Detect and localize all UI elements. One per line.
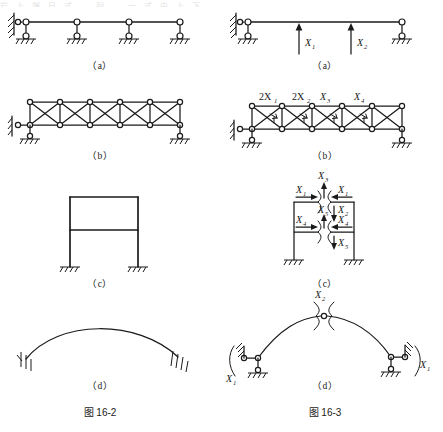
- arrow-x1-right: X 1: [331, 184, 352, 200]
- label-d-x1-right-sub: 1: [427, 365, 430, 372]
- fig-16-3-label-a: （a）: [285, 58, 365, 72]
- label-c-x1-left: X: [295, 184, 303, 195]
- label-d-x2: X: [314, 289, 322, 300]
- page-top-bleed-text: 岩 上 端 日 式 — 列 — 一 式 中 上 下: [0, 0, 443, 7]
- fig-16-3-label-d: （d）: [285, 378, 365, 392]
- label-c-x4-right: X: [337, 214, 345, 225]
- figure-caption-16-3: 图 16-3: [285, 404, 365, 419]
- label-x3: X: [319, 91, 327, 102]
- fig-16-3-panel-b: 2X 1 2X 2 X 3 X 4: [230, 92, 435, 154]
- arch-right-support: [171, 351, 188, 372]
- fig-16-3-panel-a: X 1 X 2: [230, 10, 435, 56]
- fig-16-2-label-d: （d）: [60, 378, 140, 392]
- label-x2-sub: 2: [364, 43, 368, 50]
- force-arrow-x2: X 2: [348, 23, 368, 54]
- label-d-x2-sub: 2: [322, 295, 326, 302]
- label-c-x5-mid: X: [317, 204, 325, 215]
- label-c-x1-left-sub: 1: [303, 190, 306, 197]
- fig-16-3-label-b: （b）: [285, 148, 365, 162]
- arrow-x5-right: X 5: [331, 236, 349, 250]
- label-c-x2-sub: 2: [345, 210, 349, 217]
- arch-right-support-group: X 1: [381, 342, 430, 377]
- fig-16-3-panel-d: X 2: [228, 296, 440, 382]
- figure-caption-16-2: 图 16-2: [60, 404, 140, 419]
- figure-sheet: 岩 上 端 日 式 — 列 — 一 式 中 上 下: [0, 0, 443, 432]
- fig-16-3-label-c: （c）: [285, 276, 365, 290]
- fig-16-2-panel-c: [8, 185, 208, 275]
- label-x4-sub: 4: [361, 97, 365, 104]
- arrow-x5-mid: X 5: [317, 204, 329, 228]
- fig-16-2-panel-b: [8, 92, 208, 154]
- label-c-x5-right: X: [337, 237, 345, 248]
- fig-16-2-label-a: （a）: [60, 58, 140, 72]
- label-d-x1-right: X: [419, 359, 427, 370]
- label-2x1: 2X: [259, 91, 272, 102]
- label-c-x1-right-sub: 1: [345, 190, 348, 197]
- label-d-x1-left-sub: 1: [233, 379, 236, 386]
- label-c-x3-sub: 3: [324, 176, 329, 183]
- label-x1: X: [304, 37, 312, 48]
- label-2x2: 2X: [292, 91, 305, 102]
- label-x2: X: [356, 37, 364, 48]
- fig-16-2-panel-a: [8, 10, 208, 56]
- arrow-x1-left: X 1: [295, 184, 318, 200]
- label-2x2-sub: 2: [307, 97, 311, 104]
- label-c-x4-left-sub: 4: [303, 220, 307, 227]
- label-c-x4-left: X: [295, 214, 303, 225]
- label-c-x4-right-sub: 4: [345, 220, 349, 227]
- label-x4: X: [353, 91, 361, 102]
- label-c-x5-right-sub: 5: [345, 243, 349, 250]
- label-c-x3: X: [317, 170, 325, 181]
- arrow-x3: X 3: [317, 170, 329, 198]
- fig-16-3-panel-c: X 1 X 3 X 1 X 2: [256, 180, 436, 275]
- force-arrow-x1: X 1: [296, 23, 316, 54]
- label-x1-sub: 1: [312, 43, 315, 50]
- fig-16-2-label-b: （b）: [60, 148, 140, 162]
- label-d-x1-left: X: [225, 373, 233, 384]
- arch-left-support-group: X 1: [225, 343, 268, 386]
- fig-16-2-label-c: （c）: [60, 276, 140, 290]
- fig-16-2-panel-d: [8, 305, 208, 380]
- arrow-x4-left: X 4: [295, 214, 318, 230]
- label-c-x1-right: X: [337, 184, 345, 195]
- label-2x1-sub: 1: [274, 97, 277, 104]
- label-x3-sub: 3: [326, 97, 331, 104]
- label-c-x5-mid-sub: 5: [325, 210, 329, 217]
